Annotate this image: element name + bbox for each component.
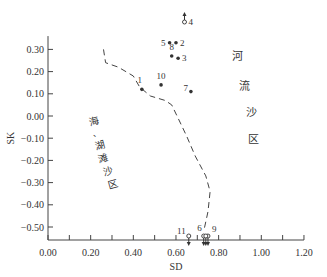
y-tick-label: −0.20 xyxy=(21,155,44,166)
svg-text:河: 河 xyxy=(232,50,243,62)
data-point: 11 xyxy=(177,226,191,246)
data-point: 1 xyxy=(138,75,144,91)
beach-sand-label: 海 、 湖 滩 沙 区 xyxy=(88,114,120,191)
svg-text:流: 流 xyxy=(239,79,250,92)
y-tick-label: 0.10 xyxy=(27,88,45,99)
svg-text:海: 海 xyxy=(88,114,101,128)
point-label: 9 xyxy=(212,224,217,234)
x-tick-label: 0.60 xyxy=(167,247,185,258)
point-label: 11 xyxy=(177,226,186,236)
y-tick-label: 0.30 xyxy=(27,44,45,55)
point-label: 6 xyxy=(197,223,202,233)
svg-text:沙: 沙 xyxy=(102,165,115,178)
point-label: 5 xyxy=(161,38,166,48)
data-points: 1234567891011 xyxy=(138,12,217,246)
x-axis-title: SD xyxy=(170,261,183,272)
x-tick-label: 0.80 xyxy=(210,247,228,258)
data-point: 4 xyxy=(183,12,194,27)
x-tick-label: 0.20 xyxy=(82,247,100,258)
point-label: 3 xyxy=(182,53,187,63)
point-label: 4 xyxy=(189,17,194,27)
y-tick-label: −0.50 xyxy=(21,222,44,233)
y-tick-label: −0.30 xyxy=(21,177,44,188)
svg-text:湖: 湖 xyxy=(94,139,107,152)
x-tick-label: 0.00 xyxy=(39,247,57,258)
data-point: 2 xyxy=(174,38,184,48)
point-label: 1 xyxy=(138,75,143,85)
svg-text:、: 、 xyxy=(93,129,101,138)
river-sand-label: 河 流 沙 区 xyxy=(232,50,259,145)
point-label: 8 xyxy=(169,42,174,52)
svg-text:沙: 沙 xyxy=(246,106,257,118)
svg-text:滩: 滩 xyxy=(97,151,110,165)
data-point: 10 xyxy=(157,71,167,87)
y-axis-title: SK xyxy=(5,131,16,145)
x-tick-label: 1.20 xyxy=(295,247,313,258)
svg-text:区: 区 xyxy=(107,178,120,191)
point-label: 10 xyxy=(157,71,167,81)
data-point: 8 xyxy=(169,42,174,58)
y-tick-label: 0.20 xyxy=(27,66,45,77)
y-tick-label: −0.40 xyxy=(21,199,44,210)
data-point: 3 xyxy=(176,53,187,63)
y-tick-label: 0.00 xyxy=(27,111,45,122)
point-label: 2 xyxy=(180,38,185,48)
y-tick-label: −0.10 xyxy=(21,133,44,144)
scatter-chart: 0.000.200.400.600.801.001.200.300.200.10… xyxy=(0,0,327,277)
data-point: 7 xyxy=(183,83,192,94)
svg-text:区: 区 xyxy=(248,133,259,145)
point-label: 7 xyxy=(183,83,188,93)
x-tick-label: 1.00 xyxy=(253,247,271,258)
x-tick-label: 0.40 xyxy=(125,247,143,258)
region-labels: 河 流 沙 区 海 、 湖 滩 沙 区 xyxy=(88,50,259,191)
